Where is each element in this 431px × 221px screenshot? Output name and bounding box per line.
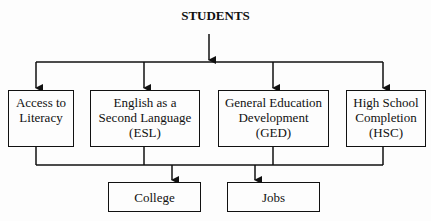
label-line: (GED) — [225, 125, 322, 140]
outcome-box-college: College — [108, 182, 201, 212]
label-line: (HSC) — [353, 125, 418, 140]
label-line: Access to — [16, 95, 66, 110]
label-line: Completion — [353, 110, 418, 125]
outcome-label: Jobs — [262, 190, 285, 205]
program-box-hsc: High SchoolCompletion(HSC) — [346, 90, 426, 147]
label-line: High School — [353, 95, 418, 110]
program-box-literacy: Access toLiteracy — [8, 90, 74, 147]
diagram-title: STUDENTS — [0, 8, 431, 24]
outcome-box-jobs: Jobs — [227, 182, 320, 212]
label-line: (ESL) — [99, 125, 192, 140]
label-line: Second Language — [99, 110, 192, 125]
label-line: Development — [225, 110, 322, 125]
label-line: English as a — [99, 95, 192, 110]
label-line: General Education — [225, 95, 322, 110]
label-line: Literacy — [16, 110, 66, 125]
program-box-esl: English as aSecond Language(ESL) — [90, 90, 200, 147]
program-box-ged: General EducationDevelopment(GED) — [218, 90, 329, 147]
outcome-label: College — [134, 190, 174, 205]
